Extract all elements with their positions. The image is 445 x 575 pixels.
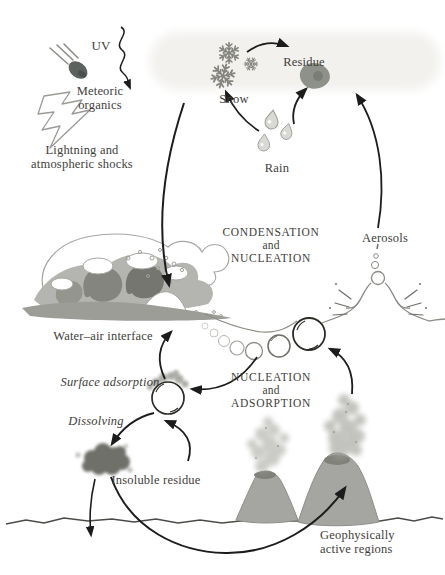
label-nucleation-line2: and bbox=[201, 384, 341, 397]
label-condensation-line2: and bbox=[201, 239, 341, 252]
label-geo-line1: Geophysically bbox=[320, 528, 430, 542]
bubble-burst-icon bbox=[327, 272, 445, 322]
label-surface-adsorption: Surface adsorption bbox=[45, 375, 175, 389]
aerosol-bubbles bbox=[371, 244, 378, 269]
label-meteoric-line2: organics bbox=[60, 98, 140, 112]
bubble-chain bbox=[202, 318, 325, 360]
label-insoluble-residue: Insoluble residue bbox=[101, 473, 211, 487]
label-nucleation-line1: NUCLEATION bbox=[201, 371, 341, 384]
label-geo-line2: active regions bbox=[320, 542, 430, 556]
label-nucleation-line3: ADSORPTION bbox=[201, 397, 341, 410]
label-lightning: Lightning and atmospheric shocks bbox=[7, 143, 157, 171]
arrow-residue-to-bubble bbox=[166, 421, 190, 461]
label-condensation-nucleation: CONDENSATION and NUCLEATION bbox=[201, 226, 341, 265]
label-lightning-line2: atmospheric shocks bbox=[7, 157, 157, 171]
arrow-uv-squiggle bbox=[119, 27, 130, 88]
arrow-aerosols-up bbox=[357, 95, 382, 228]
arrow-burial-down bbox=[90, 479, 95, 535]
label-lightning-line1: Lightning and bbox=[7, 143, 157, 157]
label-condensation-line1: CONDENSATION bbox=[201, 226, 341, 239]
label-aerosols: Aerosols bbox=[350, 231, 420, 245]
label-nucleation-adsorption: NUCLEATION and ADSORPTION bbox=[201, 371, 341, 410]
label-meteoric-line1: Meteoric bbox=[60, 84, 140, 98]
label-condensation-line3: NUCLEATION bbox=[201, 252, 341, 265]
label-residue: Residue bbox=[269, 55, 339, 69]
label-dissolving: Dissolving bbox=[56, 414, 136, 428]
label-meteoric-organics: Meteoric organics bbox=[60, 84, 140, 112]
label-snow: Snow bbox=[204, 92, 264, 106]
insoluble-residue-blob bbox=[76, 443, 133, 475]
label-rain: Rain bbox=[247, 161, 307, 175]
label-geo-active-regions: Geophysically active regions bbox=[320, 528, 430, 556]
label-uv: UV bbox=[81, 39, 121, 53]
arrow-rain-to-residue bbox=[293, 89, 306, 124]
raindrop-icon bbox=[258, 109, 295, 151]
diagram-canvas: UV Meteoric organics Lightning and atmos… bbox=[0, 0, 445, 575]
label-water-air-interface: Water–air interface bbox=[43, 329, 163, 343]
